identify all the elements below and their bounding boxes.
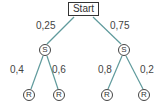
start-node: Start: [68, 2, 99, 16]
r-node: R: [138, 89, 150, 101]
edge-prob-label: 0,25: [36, 21, 55, 31]
edge-prob-label: 0,6: [52, 65, 66, 75]
r-node: R: [53, 89, 65, 101]
r-node: R: [23, 89, 35, 101]
edge-s1-r1: [31, 56, 43, 89]
edge-prob-label: 0,2: [140, 65, 154, 75]
edge-prob-label: 0,4: [10, 65, 24, 75]
s-node: S: [39, 44, 51, 56]
edge-prob-label: 0,75: [110, 21, 129, 31]
s-node: S: [118, 44, 130, 56]
r-node: R: [101, 89, 113, 101]
edge-prob-label: 0,8: [98, 65, 112, 75]
